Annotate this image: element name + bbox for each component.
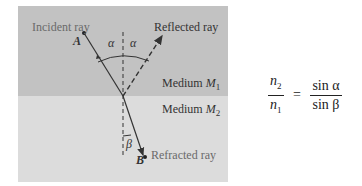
lhs-numerator: n2: [268, 72, 284, 96]
incident-ray-label: Incident ray: [32, 20, 90, 35]
medium-1-symbol: M: [206, 76, 216, 90]
refracted-ray-label: Refracted ray: [151, 148, 216, 163]
n1-subscript: 1: [277, 105, 282, 115]
medium-1-text: Medium: [162, 76, 206, 90]
reflected-ray-line: [123, 36, 162, 96]
angle-alpha-left-label: α: [108, 36, 114, 51]
reflected-ray-label: Reflected ray: [154, 20, 218, 35]
point-b-label: B: [136, 153, 144, 168]
n2-symbol: n: [270, 73, 277, 88]
equals-sign: =: [293, 87, 301, 103]
point-a-label: A: [73, 34, 81, 49]
snell-formula: n2 n1 = sin α sin β: [268, 72, 342, 119]
beta-arc: [123, 135, 131, 136]
rhs-numerator: sin α: [310, 77, 341, 96]
medium-2-text: Medium: [162, 102, 206, 116]
rhs-fraction: sin α sin β: [310, 77, 341, 114]
angle-beta-label: β: [126, 137, 132, 152]
n1-symbol: n: [270, 97, 277, 112]
medium-1-subscript: 1: [216, 82, 221, 92]
angle-alpha-right-label: α: [130, 36, 136, 51]
lhs-fraction: n2 n1: [268, 72, 284, 119]
medium-2-subscript: 2: [216, 108, 221, 118]
n2-subscript: 2: [277, 81, 282, 91]
medium-2-symbol: M: [206, 102, 216, 116]
medium-2-label: Medium M2: [162, 102, 220, 118]
incident-ray-line: [84, 33, 123, 96]
rhs-denominator: sin β: [310, 96, 341, 114]
medium-1-label: Medium M1: [162, 76, 220, 92]
lhs-denominator: n1: [268, 96, 284, 119]
